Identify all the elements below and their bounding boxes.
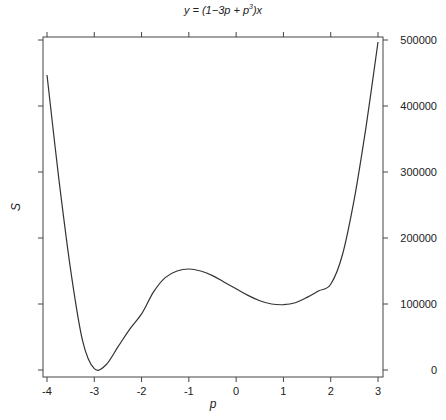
- axis-ticks: [38, 32, 388, 382]
- y-tick-label: 400000: [400, 100, 437, 112]
- y-tick-label: 500000: [400, 34, 437, 46]
- line-chart: -4-3-2-101230100000200000300000400000500…: [0, 0, 446, 420]
- x-tick-label: -2: [137, 385, 147, 397]
- y-tick-label: 300000: [400, 166, 437, 178]
- tick-labels: -4-3-2-101230100000200000300000400000500…: [42, 34, 437, 397]
- y-tick-label: 0: [431, 364, 437, 376]
- x-tick-label: -4: [42, 385, 52, 397]
- x-tick-label: 1: [280, 385, 286, 397]
- x-axis-title: p: [209, 397, 217, 411]
- x-tick-label: 2: [328, 385, 334, 397]
- data-curve: [47, 42, 378, 370]
- x-tick-label: -3: [89, 385, 99, 397]
- plot-frame: [43, 37, 383, 377]
- y-axis-title: S: [9, 203, 23, 211]
- x-tick-label: 3: [375, 385, 381, 397]
- y-tick-label: 100000: [400, 298, 437, 310]
- x-tick-label: 0: [233, 385, 239, 397]
- x-tick-label: -1: [184, 385, 194, 397]
- y-tick-label: 200000: [400, 232, 437, 244]
